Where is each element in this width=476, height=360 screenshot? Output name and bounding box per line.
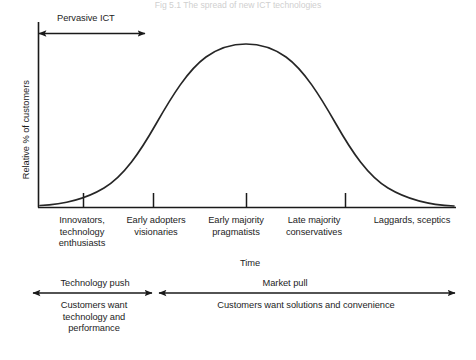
x-axis-ticks bbox=[84, 193, 346, 208]
technology-adoption-figure: Pervasive ICT Relative % of customers In… bbox=[0, 0, 476, 360]
y-axis-title: Relative % of customers bbox=[21, 60, 32, 200]
adoption-bell-curve bbox=[40, 44, 454, 206]
market-pull-description: Customers want solutions and convenience bbox=[195, 300, 417, 312]
technology-push-label: Technology push bbox=[50, 278, 140, 289]
category-label-early-adopters: Early adopters visionaries bbox=[110, 215, 202, 238]
category-label-late-majority: Late majority conservatives bbox=[268, 215, 360, 238]
market-pull-label: Market pull bbox=[240, 278, 330, 289]
pervasive-ict-label: Pervasive ICT bbox=[57, 13, 115, 24]
x-axis-title: Time bbox=[240, 258, 260, 269]
category-label-laggards: Laggards, sceptics bbox=[366, 215, 458, 227]
technology-push-description: Customers want technology and performanc… bbox=[42, 300, 146, 335]
